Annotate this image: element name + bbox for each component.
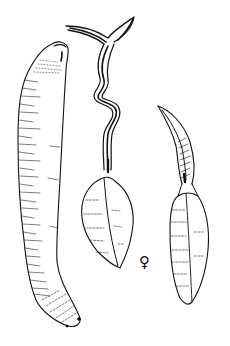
middle-specimen bbox=[66, 17, 134, 268]
specimen-illustration bbox=[0, 0, 230, 346]
right-specimen bbox=[158, 106, 209, 304]
female-symbol-label: ♀ bbox=[139, 255, 150, 270]
left-specimen bbox=[18, 42, 80, 327]
